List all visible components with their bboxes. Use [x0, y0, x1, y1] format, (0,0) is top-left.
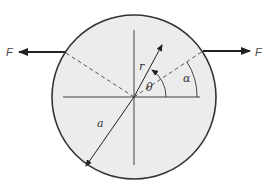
- disk-diagram: F F r θ α a: [0, 0, 268, 190]
- force-label-left: F: [6, 46, 14, 58]
- disk-radius-label-a: a: [97, 117, 104, 130]
- alpha-label: α: [183, 72, 191, 85]
- force-label-right: F: [255, 46, 263, 58]
- theta-label: θ: [146, 81, 153, 94]
- radius-label-r: r: [139, 60, 145, 73]
